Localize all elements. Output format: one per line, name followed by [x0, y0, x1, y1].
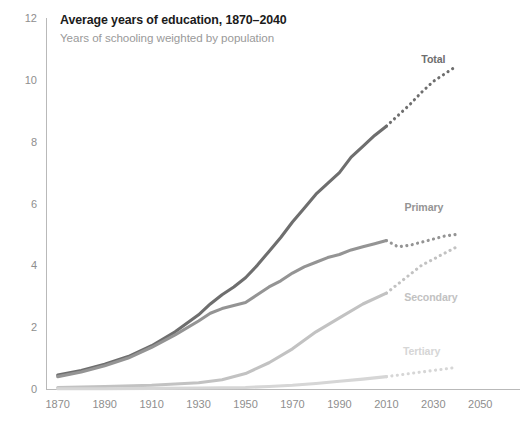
- y-axis-tick-label: 10: [25, 74, 37, 86]
- x-axis-tick-label: 1950: [233, 398, 257, 410]
- x-axis: 1870189019101930195019701990201020302050: [45, 389, 520, 410]
- x-axis-tick-label: 1870: [45, 398, 69, 410]
- y-axis: 024681012: [25, 12, 46, 395]
- series-label-secondary: Secondary: [404, 291, 457, 303]
- chart-subtitle: Years of schooling weighted by populatio…: [60, 31, 274, 44]
- x-axis-tick-label: 2030: [421, 398, 445, 410]
- series-lines: [58, 66, 457, 389]
- x-axis-tick-label: 2010: [374, 398, 398, 410]
- x-axis-tick-label: 1990: [327, 398, 351, 410]
- series-projection-primary: [386, 234, 456, 246]
- series-label-total: Total: [421, 53, 445, 65]
- series-label-tertiary: Tertiary: [403, 345, 440, 357]
- y-axis-tick-label: 4: [31, 259, 37, 271]
- y-axis-tick-label: 2: [31, 321, 37, 333]
- chart-header: Average years of education, 1870–2040 Ye…: [60, 13, 287, 44]
- x-axis-tick-label: 1970: [280, 398, 304, 410]
- chart-container: Average years of education, 1870–2040 Ye…: [0, 0, 528, 427]
- education-line-chart: Average years of education, 1870–2040 Ye…: [0, 0, 528, 427]
- y-axis-tick-label: 0: [31, 383, 37, 395]
- series-projection-tertiary: [386, 367, 456, 376]
- series-label-primary: Primary: [405, 201, 444, 213]
- y-axis-tick-label: 8: [31, 136, 37, 148]
- series-projection-secondary: [386, 247, 456, 293]
- series-line-primary: [58, 241, 387, 377]
- series-labels: TotalPrimarySecondaryTertiary: [403, 53, 458, 357]
- x-axis-tick-label: 2050: [468, 398, 492, 410]
- y-axis-tick-label: 12: [25, 12, 37, 24]
- series-projection-total: [386, 66, 456, 126]
- y-axis-tick-label: 6: [31, 198, 37, 210]
- series-line-total: [58, 126, 387, 375]
- x-axis-tick-label: 1910: [139, 398, 163, 410]
- x-axis-tick-label: 1930: [186, 398, 210, 410]
- x-axis-tick-label: 1890: [92, 398, 116, 410]
- chart-title: Average years of education, 1870–2040: [60, 13, 287, 27]
